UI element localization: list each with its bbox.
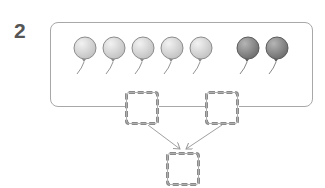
balloon-dark-icon: [266, 37, 288, 74]
diagram-graphics: [0, 0, 325, 188]
answer-box-left[interactable]: [125, 91, 159, 125]
balloon-light-icon: [103, 37, 125, 74]
arrow-right-to-total: [186, 125, 222, 149]
balloon-dark-icon: [237, 37, 259, 74]
answer-box-right[interactable]: [205, 91, 239, 125]
arrow-left-to-total: [148, 125, 180, 149]
balloon-light-icon: [161, 37, 183, 74]
balloon-light-icon: [74, 37, 96, 74]
balloon-light-icon: [132, 37, 154, 74]
answer-box-total[interactable]: [166, 152, 200, 186]
balloon-light-icon: [190, 37, 212, 74]
